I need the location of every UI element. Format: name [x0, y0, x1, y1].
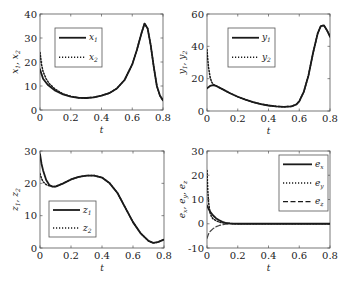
panel-xplot: 00.20.40.60.8010203040tx1, x2x1x2: [10, 9, 171, 136]
figure: 00.20.40.60.8010203040tx1, x2x1x200.20.4…: [0, 0, 346, 282]
x-tick-label: 0.4: [94, 112, 110, 123]
y-label-sub: z: [181, 180, 188, 185]
y-tick-label: 0: [31, 243, 37, 254]
x-axis-label: t: [100, 125, 104, 135]
x-tick-label: 0.4: [261, 250, 277, 261]
legend-label-sub: y: [319, 182, 324, 190]
legend: y1y2: [228, 28, 275, 67]
panel-eplot: 00.20.40.60.8-100102030tex, ey, ezexeyez: [177, 146, 338, 274]
y-tick-label: 10: [24, 210, 37, 221]
legend: exeyez: [279, 155, 328, 211]
x-tick-label: 0.8: [322, 113, 338, 124]
y-tick-label: 0: [198, 106, 204, 117]
x-tick-label: 0: [37, 112, 43, 123]
x-tick-label: 0: [204, 113, 210, 124]
legend-label-sub: 2: [87, 227, 92, 234]
y-tick-label: 30: [24, 146, 37, 157]
panel-yplot: 00.20.40.60.80204060ty1, y2y1y2: [177, 9, 338, 137]
x-tick-label: 0: [37, 250, 43, 261]
y-tick-label: 20: [191, 170, 204, 181]
series-line-ez: [207, 224, 330, 239]
x-tick-label: 0.2: [63, 112, 79, 123]
legend-label-sub: 1: [267, 36, 271, 43]
legend: z1z2: [49, 201, 96, 237]
x-tick-label: 0.6: [125, 250, 141, 261]
x-tick-label: 0.4: [94, 250, 110, 261]
y-tick-label: 20: [191, 73, 204, 84]
x-tick-label: 0: [204, 250, 210, 261]
x-axis-label: t: [267, 126, 271, 136]
y-tick-label: 30: [191, 146, 204, 157]
y-axis-label: y1, y2: [177, 51, 188, 76]
x-tick-label: 0.6: [291, 250, 307, 261]
y-label-sub: 2: [181, 51, 188, 56]
y-tick-label: 20: [24, 57, 37, 68]
x-tick-label: 0.2: [63, 250, 79, 261]
x-tick-label: 0.2: [230, 250, 246, 261]
y-tick-label: 10: [24, 81, 37, 92]
x-tick-label: 0.8: [322, 250, 338, 261]
y-label-sub: 2: [14, 50, 21, 55]
panel-zplot: 00.20.40.60.80102030tz1, z2z1z2: [10, 146, 172, 274]
y-tick-label: 0: [198, 218, 204, 229]
y-tick-label: 40: [191, 41, 204, 52]
legend: x1x2: [55, 28, 102, 67]
y-axis-label: x1, x2: [10, 50, 21, 74]
y-tick-label: 40: [24, 9, 37, 20]
y-tick-label: 60: [191, 9, 204, 20]
y-axis-label: ex, ey, ez: [177, 180, 189, 218]
x-tick-label: 0.6: [124, 112, 140, 123]
legend-label-sub: 2: [93, 56, 98, 63]
y-tick-label: 0: [31, 105, 37, 116]
y-tick-label: -10: [188, 243, 204, 254]
y-label-sub: 2: [14, 188, 21, 193]
y-tick-label: 20: [24, 178, 37, 189]
x-tick-label: 0.2: [230, 113, 246, 124]
x-tick-label: 0.8: [155, 112, 171, 123]
x-axis-label: t: [100, 263, 104, 273]
x-axis-label: t: [267, 263, 271, 273]
x-tick-label: 0.8: [156, 250, 172, 261]
legend-label-sub: 1: [94, 36, 98, 43]
y-tick-label: 10: [191, 194, 204, 205]
y-tick-label: 30: [24, 33, 37, 44]
x-tick-label: 0.6: [291, 113, 307, 124]
y-axis-label: z1, z2: [10, 188, 21, 212]
legend-label-sub: 1: [88, 209, 92, 216]
x-tick-label: 0.4: [261, 113, 277, 124]
legend-label-sub: 2: [266, 56, 271, 63]
